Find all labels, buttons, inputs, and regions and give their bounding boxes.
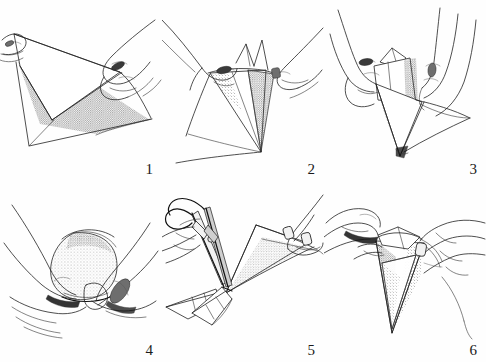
panel-cut-tip-with-scissors: 5 <box>162 181 324 362</box>
panel-open-finished-cone: 6 <box>324 181 486 362</box>
panel-grid: 1 <box>0 0 486 362</box>
panel-5-drawing <box>162 181 324 362</box>
panel-number-5: 5 <box>308 343 316 358</box>
panel-number-3: 3 <box>470 162 478 177</box>
panel-number-1: 1 <box>146 162 154 177</box>
panel-cup-rounded-form: 4 <box>0 181 162 362</box>
panel-6-drawing <box>324 181 486 362</box>
panel-form-cone: 2 <box>162 0 324 181</box>
panel-number-2: 2 <box>308 162 316 177</box>
panel-number-6: 6 <box>470 343 478 358</box>
panel-fold-flat-sheet: 1 <box>0 0 162 181</box>
panel-3-drawing <box>324 0 486 181</box>
panel-hold-cone: 3 <box>324 0 486 181</box>
panel-2-drawing <box>162 0 324 181</box>
panel-1-drawing <box>0 0 162 181</box>
panel-4-drawing <box>0 181 162 362</box>
illustration-sheet: 1 <box>0 0 486 362</box>
panel-number-4: 4 <box>146 343 154 358</box>
